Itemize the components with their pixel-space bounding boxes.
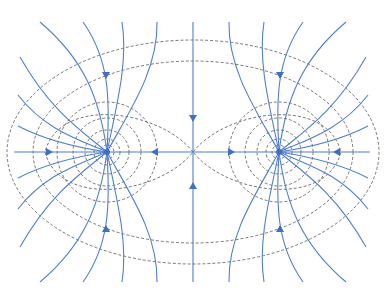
arrow-left-axis <box>46 148 53 156</box>
arrow-upper-left <box>102 72 110 79</box>
charge-right <box>276 149 282 155</box>
arrow-upper-right <box>276 72 284 79</box>
arrow-center-left <box>151 148 158 156</box>
charge-left <box>104 149 110 155</box>
arrow-lower-left <box>102 225 110 232</box>
arrow-right-axis <box>333 148 340 156</box>
field-diagram <box>0 0 384 301</box>
arrow-center-bottom <box>189 182 197 189</box>
arrow-center-right <box>228 148 235 156</box>
arrow-center-top <box>189 115 197 122</box>
arrow-lower-right <box>276 225 284 232</box>
